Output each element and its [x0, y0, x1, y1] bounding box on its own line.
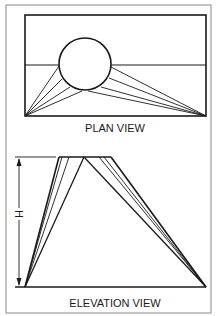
arrow-up-icon	[17, 158, 22, 166]
height-label: H	[13, 210, 25, 218]
plan-view: PLAN VIEW	[25, 15, 206, 134]
elevation-view: H ELEVATION VIEW	[13, 157, 206, 309]
elevation-right-rays	[84, 157, 206, 287]
diagram-canvas: PLAN VIEW H ELEVATION VIEW	[0, 0, 218, 316]
arrow-down-icon	[17, 278, 22, 286]
elevation-view-caption: ELEVATION VIEW	[69, 297, 161, 309]
plan-view-caption: PLAN VIEW	[85, 122, 146, 134]
plan-circle	[59, 38, 111, 90]
elevation-left-rays	[25, 157, 84, 287]
